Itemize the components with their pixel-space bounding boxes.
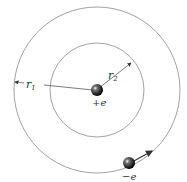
- orbit-diagram: r1 r2 +e −e: [0, 0, 187, 182]
- nucleus-label: +e: [92, 97, 106, 108]
- r1-line: [44, 85, 93, 90]
- electron: [123, 157, 135, 169]
- r1-arrow: [15, 82, 24, 83]
- velocity-arrow: [132, 151, 152, 162]
- r2-label: r2: [108, 69, 118, 83]
- r1-label: r1: [26, 78, 36, 92]
- diagram-canvas: r1 r2 +e −e: [0, 0, 187, 182]
- nucleus: [91, 84, 103, 96]
- electron-label: −e: [122, 171, 136, 182]
